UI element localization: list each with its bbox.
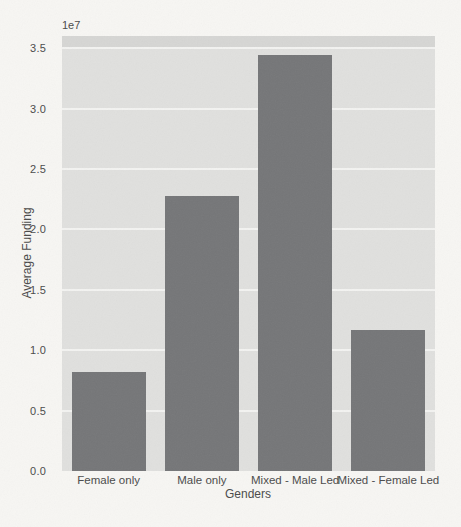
gridline bbox=[62, 168, 435, 170]
x-tick-label: Mixed - Male Led bbox=[251, 474, 339, 486]
bar-mixed-male-led bbox=[258, 55, 332, 471]
y-tick-label: 1.5 bbox=[30, 284, 46, 296]
y-tick-label: 0.5 bbox=[30, 405, 46, 417]
gridline bbox=[62, 289, 435, 291]
x-tick-label: Female only bbox=[77, 474, 140, 486]
bar-female-only bbox=[72, 372, 146, 471]
x-tick-label: Mixed - Female Led bbox=[338, 474, 440, 486]
y-tick-label: 2.0 bbox=[30, 223, 46, 235]
plot-area bbox=[62, 36, 435, 471]
y-tick-label: 0.0 bbox=[30, 465, 46, 477]
y-tick-label: 3.5 bbox=[30, 42, 46, 54]
scanned-chart-page: 1e7 Average Funding 0.00.51.01.52.02.53.… bbox=[0, 0, 461, 527]
y-axis-offset-text: 1e7 bbox=[62, 19, 80, 31]
y-axis-tick-labels: 0.00.51.01.52.02.53.03.5 bbox=[0, 36, 56, 471]
y-tick-label: 2.5 bbox=[30, 163, 46, 175]
bar-male-only bbox=[165, 196, 239, 472]
gridline bbox=[62, 108, 435, 110]
bar-mixed-female-led bbox=[351, 330, 425, 471]
gridline bbox=[62, 47, 435, 49]
y-tick-label: 1.0 bbox=[30, 344, 46, 356]
y-tick-label: 3.0 bbox=[30, 103, 46, 115]
gridline bbox=[62, 228, 435, 230]
x-axis-label: Genders bbox=[225, 487, 271, 501]
x-tick-label: Male only bbox=[177, 474, 226, 486]
